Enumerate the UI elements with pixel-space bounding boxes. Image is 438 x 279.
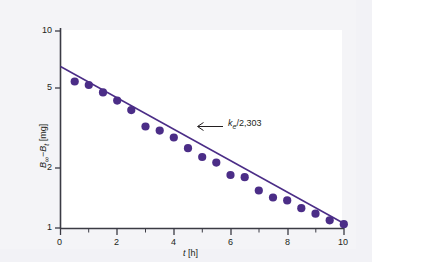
data-point [184,144,192,152]
data-point [198,153,206,161]
y-tick-label-5: 5 [34,82,52,92]
data-point [212,159,220,167]
data-point [127,106,135,114]
data-points [71,77,348,228]
y-tick-label-1: 1 [34,222,52,232]
y-axis-title-b2: B [38,146,48,152]
data-point [340,220,348,228]
slope-annotation-rest: /2,303 [236,118,261,128]
data-point [156,127,164,135]
x-tick-label-8: 8 [285,237,290,247]
data-point [99,88,107,96]
x-tick-label-10: 10 [338,237,348,247]
scan-canvas: 10 5 2 1 0 2 4 6 8 10 B∞−Bt [mg] t [h] k… [0,0,438,279]
data-point [85,81,93,89]
slope-annotation-label: ke/2,303 [228,118,261,130]
data-point [255,186,263,194]
data-point [141,122,149,130]
data-point [113,97,121,105]
x-tick-label-6: 6 [228,237,233,247]
x-axis-title: t [h] [183,248,198,258]
y-axis-title-unit: [mg] [38,124,48,144]
x-tick-label-0: 0 [57,237,62,247]
y-axis-title-sub-infinity: ∞ [43,157,50,162]
data-point [241,173,249,181]
y-tick-label-10: 10 [34,25,52,35]
data-point [170,133,178,141]
data-point [326,216,334,224]
data-point [269,193,277,201]
x-tick-label-4: 4 [171,237,176,247]
data-point [311,210,319,218]
data-point [226,171,234,179]
x-tick-label-2: 2 [114,237,119,247]
y-axis-title-sub-t: t [43,144,50,146]
data-point [297,204,305,212]
y-axis-title: B∞−Bt [mg] [38,124,50,168]
data-point [283,196,291,204]
x-axis-title-unit: [h] [186,248,199,258]
y-axis-title-dash: − [38,152,48,157]
y-axis-title-b1: B [38,162,48,168]
data-point [71,77,79,85]
chart-figure [0,0,438,279]
annotation-arrow-icon [198,123,224,131]
